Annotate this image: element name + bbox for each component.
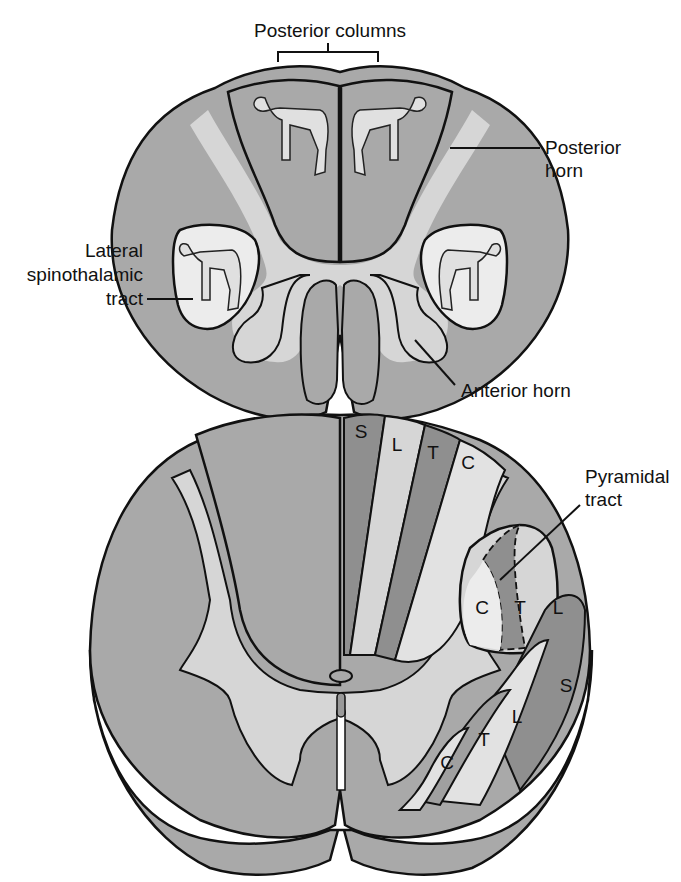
segment-label-t: T: [427, 442, 439, 464]
segment-label-l: L: [392, 434, 403, 456]
label-posterior-horn-1: Posterior: [545, 137, 621, 159]
label-posterior-horn-2: horn: [545, 160, 583, 182]
label-pyramidal-tract-2: tract: [585, 489, 622, 511]
label-posterior-columns: Posterior columns: [250, 20, 410, 42]
label-lateral-spinothalamic-1: Lateral: [0, 240, 143, 262]
label-lateral-spinothalamic-2: spinothalamic: [0, 264, 143, 286]
segment-label-c: C: [461, 452, 475, 474]
pyramidal-label-l: L: [553, 597, 564, 619]
anterolateral-label-t: T: [478, 729, 490, 751]
pyramidal-label-c: C: [475, 597, 489, 619]
label-anterior-horn: Anterior horn: [461, 380, 571, 402]
lower-cord-section: [90, 414, 592, 874]
anterior-median-fissure: [337, 708, 345, 791]
pyramidal-label-t: T: [514, 597, 526, 619]
central-canal: [330, 670, 352, 682]
spinal-cord-diagram: [0, 0, 681, 882]
anterolateral-label-l: L: [512, 706, 523, 728]
anterolateral-label-s: S: [560, 675, 573, 697]
anterolateral-label-c: C: [440, 752, 454, 774]
label-lateral-spinothalamic-3: tract: [0, 288, 143, 310]
label-pyramidal-tract-1: Pyramidal: [585, 466, 669, 488]
segment-label-s: S: [355, 421, 368, 443]
upper-cord-section: [112, 43, 569, 419]
